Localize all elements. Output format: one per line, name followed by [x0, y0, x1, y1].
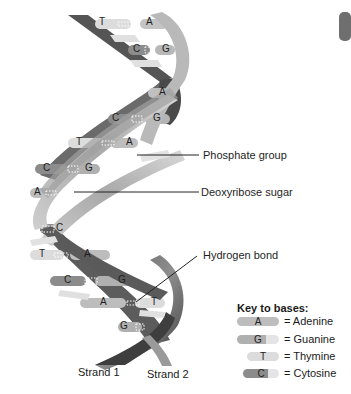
base-letter: T [39, 248, 45, 259]
key-row-thymine: T = Thymine [247, 349, 335, 363]
base-letter: G [120, 320, 128, 331]
key-base-letter: T [260, 351, 266, 362]
key-name: = Thymine [284, 350, 335, 362]
adenine-pill: A [237, 317, 279, 326]
strand-2-label: Strand 2 [147, 368, 189, 380]
base-letter: A [34, 186, 41, 197]
corner-tab [339, 12, 351, 41]
base-letter: T [99, 16, 105, 27]
base-letter: A [159, 86, 166, 97]
deoxyribose-sugar-label: Deoxyribose sugar [201, 186, 293, 198]
base-letter: A [146, 16, 153, 27]
base-letter: T [151, 296, 157, 307]
key-base-letter: G [254, 334, 262, 345]
base-letter: G [118, 274, 126, 285]
key-name: = Cytosine [284, 367, 336, 379]
base-letter: C [112, 112, 119, 123]
key-row-adenine: A = Adenine [237, 314, 333, 328]
base-letter: C [133, 43, 140, 54]
guanine-pill: G [237, 335, 279, 344]
base-letter: C [56, 222, 63, 233]
base-letter: C [43, 162, 50, 173]
key-row-guanine: G = Guanine [237, 332, 335, 346]
key-name: = Guanine [284, 333, 335, 345]
strand-front [30, 12, 189, 370]
phosphate-group-label: Phosphate group [203, 149, 287, 161]
base-letter: A [100, 296, 107, 307]
key-name: = Adenine [284, 315, 333, 327]
key-row-cytosine: C = Cytosine [243, 366, 336, 380]
key-title: Key to bases: [237, 302, 309, 314]
base-letter: G [85, 162, 93, 173]
base-letter: C [64, 274, 71, 285]
thymine-pill: T [247, 352, 279, 361]
base-letter: A [84, 248, 91, 259]
strand-1-label: Strand 1 [78, 366, 120, 378]
base-letter: T [76, 136, 82, 147]
key-base-letter: C [257, 368, 264, 379]
base-letter: A [126, 136, 133, 147]
base-letter: G [162, 43, 170, 54]
hydrogen-bond-label: Hydrogen bond [203, 249, 278, 261]
cytosine-pill: C [243, 369, 279, 378]
base-letter: G [153, 112, 161, 123]
key-base-letter: A [255, 316, 262, 327]
